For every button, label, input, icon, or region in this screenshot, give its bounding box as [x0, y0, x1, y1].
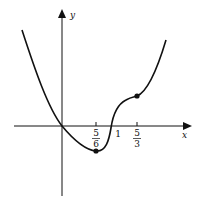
tick-label-5-3-numerator: 5 — [134, 128, 140, 138]
function-graph: y x 5 6 1 5 3 — [0, 0, 201, 203]
x-axis-arrow-icon — [183, 122, 192, 130]
tick-label-5-6-numerator: 5 — [93, 128, 99, 138]
tick-label-5-3-denominator: 3 — [134, 139, 140, 149]
x-axis-label: x — [182, 130, 187, 140]
local-minimum-point — [93, 148, 98, 153]
tick-label-1: 1 — [115, 129, 121, 139]
inflection-point — [134, 93, 139, 98]
y-axis-label: y — [69, 10, 76, 20]
tick-label-5-6-denominator: 6 — [93, 139, 99, 149]
y-axis-arrow-icon — [58, 9, 66, 18]
